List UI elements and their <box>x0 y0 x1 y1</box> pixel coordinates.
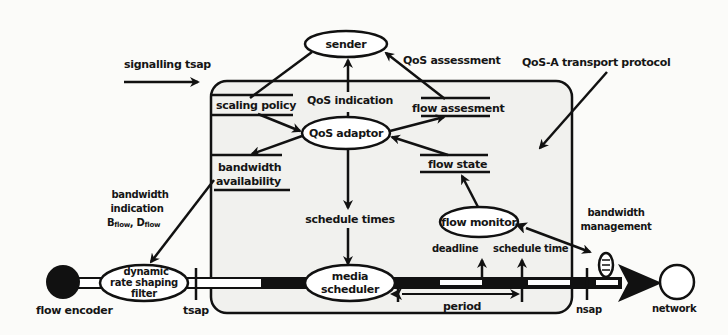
svg-text:media: media <box>332 270 369 283</box>
scaling-policy-label: scaling policy <box>216 99 296 112</box>
network-node: network <box>652 265 697 314</box>
flow-encoder-label: flow encoder <box>36 304 114 317</box>
qos-adaptor-label: QoS adaptor <box>309 127 384 140</box>
svg-text:dynamic: dynamic <box>123 266 169 277</box>
qos-adaptor-node: QoS adaptor <box>302 117 390 149</box>
bandwidth-valve-icon <box>599 253 613 277</box>
schedule-time-label: schedule time <box>493 243 569 254</box>
bandwidth-availability-label-2: availability <box>216 175 281 188</box>
qos-assessment-label: QoS assessment <box>403 54 501 67</box>
qos-a-transport-protocol-label: QoS-A transport protocol <box>522 56 671 69</box>
signalling-tsap-label: signalling tsap <box>124 58 211 71</box>
svg-text:Bflow, Dflow: Bflow, Dflow <box>107 217 161 229</box>
flow-assessment-label: flow assesment <box>412 102 504 115</box>
svg-text:management: management <box>580 221 652 232</box>
network-label: network <box>652 303 697 314</box>
svg-text:filter: filter <box>131 288 157 299</box>
deadline-label: deadline <box>432 243 479 254</box>
qos-indication-label: QoS indication <box>307 94 393 107</box>
flow-encoder-node: flow encoder <box>36 265 114 317</box>
bandwidth-availability-label-1: bandwidth <box>218 161 281 174</box>
bandwidth-management-label: bandwidth management <box>580 207 652 232</box>
tsap-label: tsap <box>183 304 209 317</box>
flow-monitor-node: flow monitor <box>440 207 518 237</box>
svg-text:bandwidth: bandwidth <box>587 207 644 218</box>
schedule-times-label: schedule times <box>305 213 395 226</box>
svg-text:indication: indication <box>110 203 163 214</box>
period-label: period <box>443 300 481 313</box>
svg-text:bandwidth: bandwidth <box>111 189 168 200</box>
qos-a-diagram: signalling tsap QoS-A transport protocol… <box>0 0 728 335</box>
svg-text:scheduler: scheduler <box>321 283 380 296</box>
sender-label: sender <box>326 38 368 51</box>
media-scheduler-node: media scheduler <box>305 265 395 301</box>
sender-node: sender <box>305 31 387 57</box>
svg-text:rate shaping: rate shaping <box>110 277 178 288</box>
bandwidth-indication-label: bandwidth indication Bflow, Dflow <box>107 189 169 229</box>
flow-monitor-label: flow monitor <box>441 216 517 229</box>
nsap-label: nsap <box>576 304 602 315</box>
dynamic-rate-shaping-filter-node: dynamic rate shaping filter <box>100 265 188 301</box>
flow-state-store: flow state <box>420 155 490 172</box>
bandwidth-availability-store: bandwidth availability <box>212 155 290 190</box>
flow-state-label: flow state <box>428 158 487 171</box>
